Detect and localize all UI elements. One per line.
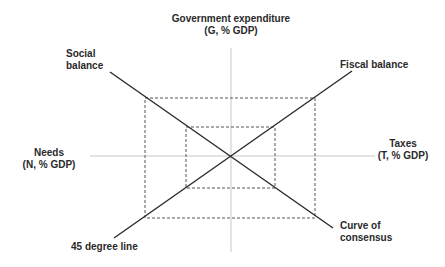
curve-of-consensus-label: Curve of consensus [340,220,392,244]
fiscal-balance-label-text: Fiscal balance [340,59,408,71]
government-expenditure-label: Government expenditure (G, % GDP) [170,13,292,37]
social-balance-label-line2: balance [66,60,103,72]
government-expenditure-label-line2: (G, % GDP) [170,25,292,37]
curve-of-consensus-label-line2: consensus [340,232,392,244]
diagram-canvas: Government expenditure (G, % GDP) Social… [0,0,445,267]
forty-five-degree-line-label-text: 45 degree line [71,241,138,253]
fiscal-balance-label: Fiscal balance [340,59,408,71]
needs-label: Needs (N, % GDP) [20,147,78,171]
forty-five-degree-fiscal-balance-line [114,71,352,238]
taxes-label: Taxes (T, % GDP) [374,138,432,162]
social-balance-label: Social balance [66,48,103,72]
social-balance-curve-of-consensus-line [110,72,333,228]
curve-of-consensus-label-line1: Curve of [340,220,392,232]
taxes-label-line1: Taxes [374,138,432,150]
outer-dashed-rectangle [145,98,315,218]
needs-label-line1: Needs [20,147,78,159]
forty-five-degree-line-label: 45 degree line [71,241,138,253]
needs-label-line2: (N, % GDP) [20,159,78,171]
social-balance-label-line1: Social [66,48,103,60]
government-expenditure-label-line1: Government expenditure [170,13,292,25]
taxes-label-line2: (T, % GDP) [374,150,432,162]
